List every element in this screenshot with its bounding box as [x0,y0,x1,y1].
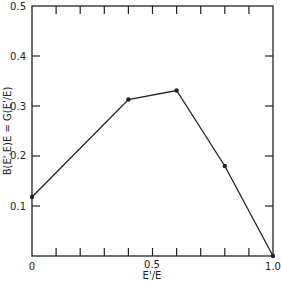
data-point [30,195,34,199]
y-tick-label-0.5: 0.5 [10,1,26,12]
y-tick-label-0.4: 0.4 [10,51,26,62]
data-point [271,254,275,258]
x-tick-label-0: 0 [29,261,35,272]
chart: 0 0.5 1.0 E'/E 0.1 0.2 0.3 0.4 0.5 B(E',… [0,0,281,282]
x-tick-label-0.5: 0.5 [144,259,160,270]
y-axis-ticks [32,56,273,206]
data-line [32,91,273,257]
x-tick-label-1.0: 1.0 [265,261,281,272]
y-axis-label: B(E',E)E = G(E'/E) [2,87,13,176]
x-axis-label: E'/E [143,270,162,281]
data-point [126,97,130,101]
plot-frame [32,6,273,256]
y-tick-label-0.1: 0.1 [10,201,26,212]
top-axis-ticks [56,6,249,14]
data-markers [30,88,275,258]
x-axis-ticks [56,248,249,256]
data-point [174,88,178,92]
data-point [223,164,227,168]
